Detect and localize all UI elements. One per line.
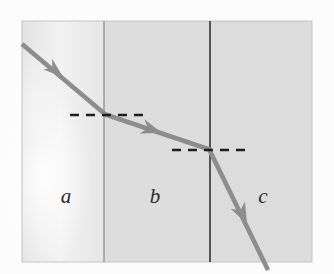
medium-label-c: c [258, 184, 268, 208]
medium-label-a: a [61, 184, 72, 208]
medium-label-b: b [150, 184, 161, 208]
medium-region-b [104, 21, 210, 262]
refraction-figure: a b c [0, 0, 334, 274]
refraction-diagram-canvas: a b c [0, 0, 334, 274]
medium-region-c [210, 21, 312, 262]
page-glare-highlight-secondary [8, 43, 60, 147]
